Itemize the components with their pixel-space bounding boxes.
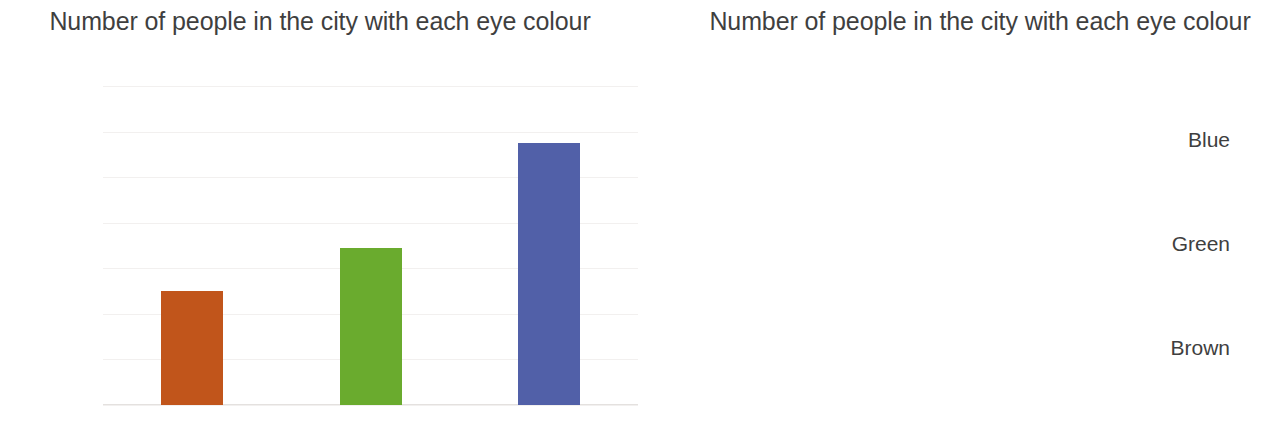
bar-chart-title: Number of people in the city with each e… [700, 6, 1260, 36]
gridline [103, 132, 638, 133]
y-axis-category-label: Green [1050, 233, 1230, 255]
chart-pair-page: Number of people in the city with each e… [0, 0, 1280, 441]
column-bar-green [340, 248, 402, 405]
y-axis-category-label: Brown [1050, 337, 1230, 359]
bar-chart-panel: Number of people in the city with each e… [640, 0, 1280, 441]
column-chart-panel: Number of people in the city with each e… [0, 0, 640, 441]
gridline [103, 405, 638, 406]
column-chart-title: Number of people in the city with each e… [40, 6, 600, 36]
column-bar-blue [518, 143, 580, 405]
column-chart-plot-area: BrownGreenBlue [103, 86, 638, 405]
y-axis-category-label: Blue [1050, 129, 1230, 151]
column-bar-brown [161, 291, 223, 405]
gridline [103, 86, 638, 87]
